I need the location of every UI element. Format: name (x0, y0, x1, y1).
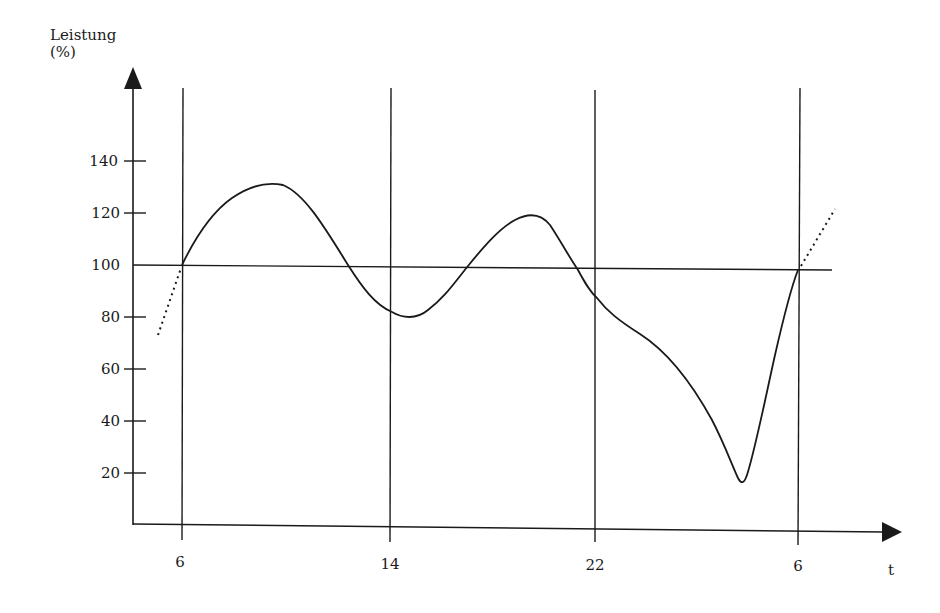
x-tick-label-14: 14 (370, 555, 410, 573)
performance-curve (182, 184, 798, 482)
y-tick-label-120: 120 (80, 204, 120, 222)
vertical-gridlines (182, 88, 800, 545)
x-axis-title: t (888, 562, 894, 579)
y-axis-title-line2: (%) (50, 44, 116, 61)
x-axis-arrow-icon (882, 522, 902, 542)
x-tick-label-22: 22 (575, 556, 615, 574)
dotted-continuation-right (801, 209, 835, 266)
y-tick-label-60: 60 (80, 360, 120, 378)
reference-line-100 (133, 265, 832, 270)
y-tick-label-80: 80 (80, 308, 120, 326)
chart-canvas (0, 0, 940, 613)
y-tick-label-20: 20 (80, 464, 120, 482)
dotted-continuation-left (158, 268, 181, 335)
y-ticks (124, 161, 146, 473)
x-axis (133, 522, 902, 542)
y-axis-title: Leistung (%) (50, 27, 116, 61)
x-tick-label-6: 6 (160, 553, 200, 571)
y-axis-arrow-icon (124, 67, 142, 89)
y-tick-label-40: 40 (80, 412, 120, 430)
y-axis-title-line1: Leistung (50, 27, 116, 44)
y-tick-label-100: 100 (80, 256, 120, 274)
y-axis (124, 67, 142, 525)
x-tick-label-6-next-day: 6 (778, 557, 818, 575)
y-tick-label-140: 140 (78, 152, 118, 170)
